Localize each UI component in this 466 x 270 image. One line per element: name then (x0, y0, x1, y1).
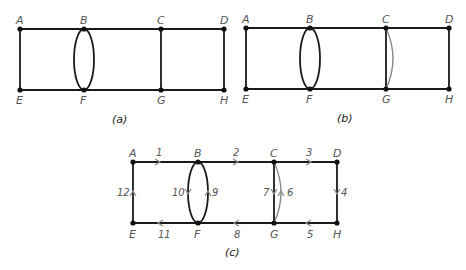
label-e: E (16, 94, 23, 107)
label-a: A (128, 147, 137, 160)
label-e: E (242, 93, 249, 106)
vertex-d (446, 25, 451, 30)
vertex-d (221, 26, 226, 31)
vertex-c (271, 159, 276, 164)
edges-b-f-double (74, 29, 94, 90)
label-f: F (306, 93, 313, 106)
vertex-a (17, 26, 22, 31)
panel-b: A B C D E F G H (b) (241, 13, 453, 125)
label-d: D (220, 14, 228, 27)
vertex-e (243, 86, 248, 91)
label-a: A (241, 13, 250, 26)
label-d: D (445, 13, 453, 26)
vertex-g (383, 86, 388, 91)
vertex-f (195, 220, 200, 225)
label-c: C (270, 147, 278, 160)
step-7: 7 (263, 187, 270, 198)
step-11: 11 (158, 229, 171, 240)
vertex-a (130, 159, 135, 164)
step-2: 2 (233, 147, 239, 158)
label-b: B (194, 147, 202, 160)
label-g: G (270, 228, 279, 241)
step-9: 9 (212, 187, 218, 198)
edges-b-f-double (188, 162, 208, 223)
label-f: F (80, 94, 87, 107)
vertex-b (307, 25, 312, 30)
step-4: 4 (341, 187, 347, 198)
step-1: 1 (156, 147, 162, 158)
vertex-h (221, 87, 226, 92)
vertex-c (158, 26, 163, 31)
step-12: 12 (117, 187, 130, 198)
vertex-a (243, 25, 248, 30)
label-h: H (333, 228, 341, 241)
step-6: 6 (287, 187, 293, 198)
vertex-f (307, 86, 312, 91)
label-a: A (15, 14, 24, 27)
label-h: H (220, 94, 228, 107)
vertex-g (271, 220, 276, 225)
label-e: E (129, 228, 136, 241)
caption-b: (b) (337, 112, 353, 125)
vertex-h (334, 220, 339, 225)
step-8: 8 (234, 229, 240, 240)
caption-c: (c) (225, 246, 240, 259)
step-10: 10 (172, 187, 185, 198)
label-b: B (306, 13, 314, 26)
euler-graph-figure: A B C D E F G H (a) A B C D E F G H (b) (0, 0, 466, 270)
label-f: F (194, 228, 201, 241)
vertex-e (130, 220, 135, 225)
vertex-h (446, 86, 451, 91)
label-c: C (382, 13, 390, 26)
step-3: 3 (306, 147, 312, 158)
vertex-f (81, 87, 86, 92)
label-g: G (382, 93, 391, 106)
label-d: D (333, 147, 341, 160)
caption-a: (a) (112, 113, 127, 126)
panel-a: A B C D E F G H (a) (15, 14, 228, 126)
vertex-c (383, 25, 388, 30)
label-c: C (157, 14, 165, 27)
vertex-e (17, 87, 22, 92)
step-5: 5 (307, 229, 313, 240)
panel-c: A B C D E F G H 1 2 3 4 5 6 7 8 9 10 11 … (117, 147, 347, 259)
edge-c-g-added (386, 28, 393, 89)
vertex-b (81, 26, 86, 31)
label-b: B (80, 14, 88, 27)
vertex-g (158, 87, 163, 92)
vertex-b (195, 159, 200, 164)
label-g: G (157, 94, 166, 107)
label-h: H (445, 93, 453, 106)
vertex-d (334, 159, 339, 164)
edges-b-f-double (300, 28, 320, 89)
